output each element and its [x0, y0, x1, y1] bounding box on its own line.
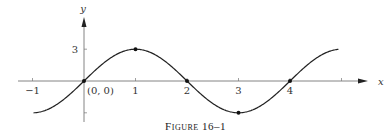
figure-plot: −112343xy(0, 0) [0, 0, 391, 139]
axes [18, 17, 368, 122]
y-tick-label: 3 [72, 44, 78, 55]
x-tick-label: −1 [25, 85, 40, 96]
x-tick-label: 2 [184, 85, 190, 96]
figure-caption: Figure 16–1 [0, 120, 391, 132]
data-point [82, 79, 86, 83]
x-tick-label: 4 [287, 85, 293, 96]
y-arrow-icon [82, 17, 87, 27]
axis-labels: −112343xy(0, 0) [25, 3, 384, 96]
data-point [134, 47, 138, 51]
data-point [237, 111, 241, 115]
origin-label: (0, 0) [87, 85, 114, 96]
x-arrow-icon [358, 79, 368, 84]
y-axis-label: y [79, 3, 86, 14]
x-tick-label: 1 [132, 85, 138, 96]
x-axis-label: x [378, 76, 384, 87]
data-point [288, 79, 292, 83]
data-point [185, 79, 189, 83]
x-tick-label: 3 [235, 85, 241, 96]
